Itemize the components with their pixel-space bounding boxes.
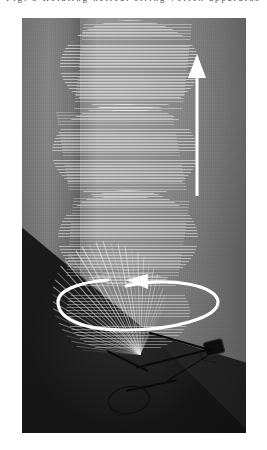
caption-text: Fig. 3 Rotating helical string vortex ap…: [0, 0, 267, 4]
caption-strip: Fig. 3 Rotating helical string vortex ap…: [0, 0, 267, 4]
helix-photograph: [22, 18, 246, 433]
figure-page: Fig. 3 Rotating helical string vortex ap…: [0, 0, 267, 450]
